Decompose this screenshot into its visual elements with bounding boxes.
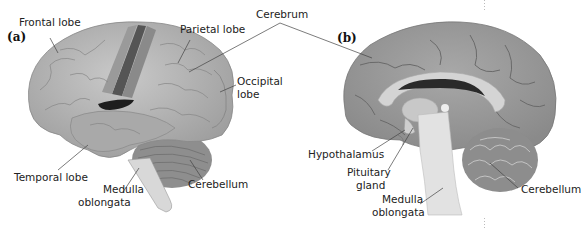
label-cerebellum-b: Cerebellum xyxy=(521,183,581,196)
label-pituitary-line2: gland xyxy=(356,179,385,192)
dotted-mark-bottom xyxy=(484,218,485,228)
panel-a-tag: (a) xyxy=(7,30,26,44)
label-medulla-b-line2: oblongata xyxy=(372,206,425,219)
dotted-mark-top xyxy=(484,0,485,10)
label-frontal-lobe: Frontal lobe xyxy=(19,16,81,29)
panel-b-tag: (b) xyxy=(337,31,357,45)
label-cerebellum-a: Cerebellum xyxy=(188,178,248,191)
label-medulla-a-line1: Medulla xyxy=(88,183,144,196)
label-cerebrum: Cerebrum xyxy=(256,8,308,21)
label-pituitary-line1: Pituitary xyxy=(347,166,391,179)
label-medulla-b-line1: Medulla xyxy=(382,193,423,206)
brain-diagram: (a) (b) Frontal lobe Parietal lobe Occip… xyxy=(0,0,586,230)
label-medulla-a-line2: oblongata xyxy=(78,196,131,209)
label-temporal-lobe: Temporal lobe xyxy=(14,171,88,184)
label-hypothalamus: Hypothalamus xyxy=(308,148,384,161)
label-parietal-lobe: Parietal lobe xyxy=(180,23,245,36)
label-occipital-lobe-line2: lobe xyxy=(237,88,259,101)
label-occipital-lobe-line1: Occipital xyxy=(237,75,283,88)
